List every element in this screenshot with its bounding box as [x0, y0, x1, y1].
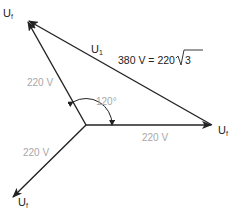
label-angle: 120°	[96, 96, 117, 107]
label-phase-voltage-right: 220 V	[142, 132, 168, 143]
label-tip-bottom-left: Uf	[18, 196, 28, 209]
label-phase-voltage-upper: 220 V	[27, 77, 53, 88]
label-tip-top-left: Uf	[3, 7, 13, 20]
label-line-voltage-symbol: U1	[91, 43, 103, 56]
label-phase-voltage-lower: 220 V	[23, 147, 49, 158]
label-sqrt-radicand: 3	[185, 54, 191, 66]
label-tip-right: Uf	[218, 124, 228, 137]
label-line-voltage-value: 380 V = 220	[118, 54, 175, 66]
phase-vector-down-left	[13, 125, 86, 197]
phasor-diagram: Uf Uf Uf U1 380 V = 220 3 220 V 220 V 22…	[0, 0, 238, 214]
